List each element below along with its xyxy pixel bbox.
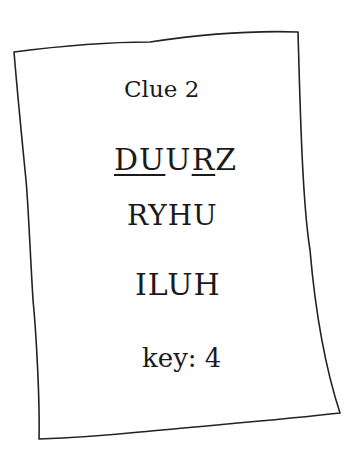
clue-title: Clue 2: [124, 78, 199, 101]
cipher-key: key: 4: [142, 345, 221, 371]
letter-4: R: [192, 142, 216, 177]
cipher-word-1: DUURZ: [114, 145, 237, 175]
letter-2: U: [139, 142, 165, 177]
cipher-word-3: ILUH: [135, 270, 221, 300]
letter-1: D: [114, 142, 139, 177]
letter-5: Z: [215, 142, 237, 177]
letter-3: U: [165, 142, 191, 177]
cipher-word-2: RYHU: [127, 202, 218, 230]
